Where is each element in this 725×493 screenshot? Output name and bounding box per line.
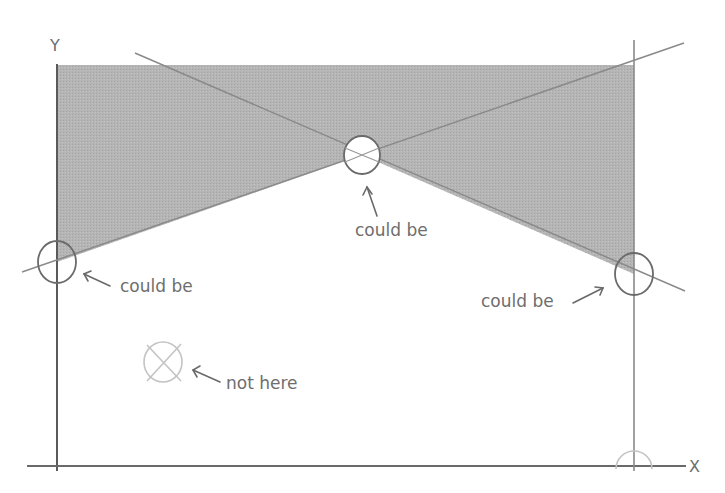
- rejected-point: [144, 342, 182, 382]
- not-here-label: not here: [226, 373, 298, 393]
- right-could-be-label: could be: [481, 291, 554, 311]
- left-arrow-icon: [84, 271, 110, 286]
- shaded-feasible-region: [57, 65, 634, 274]
- shaded-region-upper: [57, 65, 634, 274]
- center-could-be-label: could be: [355, 220, 428, 240]
- not-here-arrow-icon: [193, 366, 220, 382]
- annotation-labels: could be could be could be not here: [120, 220, 554, 393]
- right-arrow-icon: [573, 287, 603, 303]
- diagram-canvas: Y X: [0, 0, 725, 493]
- center-arrow-icon: [363, 187, 377, 216]
- y-axis-label: Y: [49, 36, 60, 55]
- left-could-be-label: could be: [120, 276, 193, 296]
- x-axis-label: X: [689, 457, 700, 476]
